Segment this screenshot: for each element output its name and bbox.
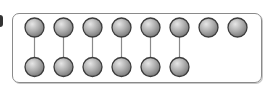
top-sphere-node	[141, 18, 160, 37]
top-row-nodes	[25, 18, 247, 37]
bottom-sphere-node	[54, 58, 73, 77]
bottom-sphere-node	[141, 58, 160, 77]
bottom-sphere-node	[25, 58, 44, 77]
connector-lines	[35, 37, 180, 58]
top-sphere-node	[199, 18, 218, 37]
top-sphere-node	[83, 18, 102, 37]
top-sphere-node	[25, 18, 44, 37]
bottom-sphere-node	[83, 58, 102, 77]
bottom-row-nodes	[25, 58, 189, 77]
top-sphere-node	[54, 18, 73, 37]
bottom-sphere-node	[112, 58, 131, 77]
top-sphere-node	[228, 18, 247, 37]
sphere-pairs-diagram	[0, 0, 272, 87]
top-sphere-node	[112, 18, 131, 37]
bottom-sphere-node	[170, 58, 189, 77]
top-sphere-node	[170, 18, 189, 37]
